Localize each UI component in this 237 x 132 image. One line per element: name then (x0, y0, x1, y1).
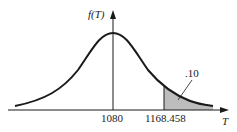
threshold-label: 1168.458 (145, 112, 186, 124)
tail-area-label: .10 (185, 67, 199, 79)
x-axis-arrow-icon (220, 107, 229, 113)
y-axis-label: f(T) (88, 8, 105, 21)
shaded-tail-region (164, 85, 213, 110)
mean-label: 1080 (101, 112, 124, 124)
bell-curve (15, 33, 213, 106)
tail-area-leader-line (178, 80, 192, 100)
normal-curve-diagram: f(T) T 1080 1168.458 .10 (0, 0, 237, 132)
x-axis-label: T (222, 115, 229, 127)
y-axis-arrow-icon (110, 10, 116, 19)
